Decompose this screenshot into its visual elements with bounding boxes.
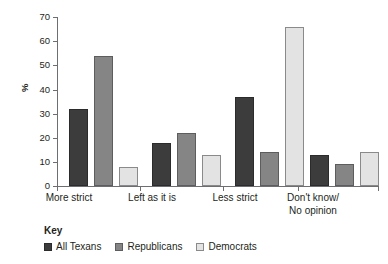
bar-all-texans-3[interactable] [310,155,329,186]
bar-republicans-0[interactable] [94,56,113,186]
plot-area: 70 60 50 40 30 20 10 0 [57,17,379,187]
x-tick-3 [298,187,299,191]
x-tick-0 [57,187,58,191]
y-tick-40: 40 [53,90,57,91]
y-tick-label-60: 60 [39,34,50,47]
y-tick-label-10: 10 [39,155,50,168]
legend-title: Key [44,225,257,237]
y-tick-70: 70 [53,17,57,18]
y-tick-10: 10 [53,162,57,163]
x-tick-4 [378,187,379,191]
y-tick-20: 20 [53,138,57,139]
y-tick-label-40: 40 [39,83,50,96]
y-axis-line [57,17,58,187]
legend-swatch-icon-all-texans [44,243,52,251]
bar-republicans-3[interactable] [335,164,354,186]
y-tick-label-50: 50 [39,58,50,71]
bar-all-texans-2[interactable] [235,97,254,186]
bar-democrats-2[interactable] [285,27,304,186]
bar-all-texans-1[interactable] [152,143,171,186]
bar-all-texans-0[interactable] [69,109,88,186]
legend-swatch-icon-democrats [196,243,204,251]
legend-items: All Texans Republicans Democrats [44,241,257,253]
y-tick-50: 50 [53,65,57,66]
y-tick-label-20: 20 [39,131,50,144]
bar-republicans-2[interactable] [260,152,279,186]
legend-label-all-texans: All Texans [56,241,101,253]
x-tick-1 [140,187,141,191]
y-tick-label-30: 30 [39,107,50,120]
y-tick-label-0: 0 [45,179,50,192]
bar-democrats-0[interactable] [119,167,138,186]
x-axis-line [57,186,379,187]
category-label-line2: No opinion [258,205,368,218]
bar-democrats-1[interactable] [202,155,221,186]
bar-democrats-3[interactable] [360,152,379,186]
bar-republicans-1[interactable] [177,133,196,186]
legend-label-republicans: Republicans [127,241,182,253]
legend-item-republicans[interactable]: Republicans [115,241,182,253]
y-tick-60: 60 [53,41,57,42]
y-tick-30: 30 [53,114,57,115]
x-tick-2 [223,187,224,191]
legend-swatch-icon-republicans [115,243,123,251]
category-label-line1: Don't know/ [258,192,368,205]
legend-item-democrats[interactable]: Democrats [196,241,256,253]
legend-label-democrats: Democrats [208,241,256,253]
y-axis-label: % [19,84,30,92]
category-label-dont-know: Don't know/ No opinion [258,192,368,217]
legend: Key All Texans Republicans Democrats [44,225,257,253]
bar-chart-figure: % 70 60 50 40 30 20 10 0 [0,0,388,264]
y-tick-label-70: 70 [39,10,50,23]
legend-item-all-texans[interactable]: All Texans [44,241,101,253]
